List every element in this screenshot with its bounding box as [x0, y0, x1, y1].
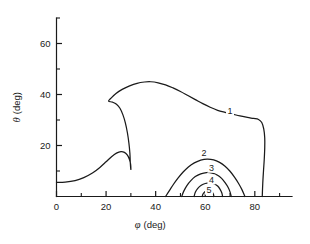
plot-canvas: 020406080204060 12345 φ(deg)θ(deg) — [0, 0, 310, 244]
x-axis-title: φ(deg) — [135, 219, 166, 230]
contour-labels: 12345 — [200, 106, 234, 195]
y-axis-title: θ(deg) — [11, 92, 22, 122]
axes — [57, 18, 293, 197]
x-tick-label: 80 — [250, 201, 261, 212]
contour-level-1 — [57, 82, 265, 197]
contour-label-3: 3 — [209, 163, 214, 173]
x-tick-label: 20 — [101, 201, 112, 212]
contour-plot-figure: 020406080204060 12345 φ(deg)θ(deg) — [0, 0, 310, 244]
contour-label-1: 1 — [228, 106, 233, 116]
y-tick-label: 20 — [40, 140, 51, 151]
contour-label-2: 2 — [201, 148, 206, 158]
x-tick-label: 40 — [150, 201, 161, 212]
axis-titles: φ(deg)θ(deg) — [11, 92, 166, 229]
x-tick-label: 0 — [54, 201, 59, 212]
axis-ticks — [57, 18, 280, 197]
y-tick-label: 40 — [40, 89, 51, 100]
contour-label-4: 4 — [209, 175, 214, 185]
contour-lines — [57, 82, 265, 197]
contour-label-5: 5 — [206, 185, 211, 195]
y-tick-label: 60 — [40, 38, 51, 49]
x-tick-label: 60 — [200, 201, 211, 212]
